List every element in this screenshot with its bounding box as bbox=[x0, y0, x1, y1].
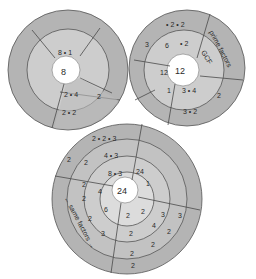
w8-ring1-right: 2 bbox=[97, 93, 101, 100]
w12-ring1-top: • 2 bbox=[180, 40, 188, 47]
w24-ring2-left: 2 bbox=[84, 159, 88, 166]
w12-ring1-left3: 1 bbox=[167, 87, 171, 94]
w24-ring1-right: 24 bbox=[136, 168, 144, 175]
w24-ring4-bottomright: 2 bbox=[151, 241, 155, 248]
w8-ring1-bottom: 2 • 4 bbox=[64, 91, 78, 98]
factor-wheels-diagram: 8 • 1 8 2 • 4 2 2 • 2 • 2 • 2 3 6 • 2 12… bbox=[0, 0, 256, 279]
w24-ring1-right2: 1 bbox=[146, 180, 150, 187]
w12-ring1-left: 6 bbox=[165, 42, 169, 49]
w24-ring2-left4: 2 bbox=[88, 215, 92, 222]
w24-ring1-bottom: 2 bbox=[126, 212, 130, 219]
w12-ring2-right: 2 bbox=[217, 92, 221, 99]
w24-ring1-left: 4 bbox=[98, 188, 102, 195]
w24-center: 24 bbox=[117, 186, 127, 196]
w24-ring3-right: 3 bbox=[178, 212, 182, 219]
w24-ring3-bottomright: 2 bbox=[167, 228, 171, 235]
w8-center: 8 bbox=[61, 67, 66, 77]
w12-ring2-left: 3 bbox=[145, 41, 149, 48]
wheel-12: • 2 • 2 3 6 • 2 12 12 1 3 • 4 2 3 • 2 GC… bbox=[129, 10, 245, 126]
w12-ring2-bottom: 3 • 2 bbox=[183, 108, 197, 115]
w24-ring2-top: 4 • 3 bbox=[104, 152, 118, 159]
wheel-8: 8 • 1 8 2 • 4 2 2 • 2 bbox=[8, 10, 128, 130]
w24-ring2-bottomright: 4 bbox=[152, 222, 156, 229]
wheel-24: 2 • 2 • 3 4 • 3 2 2 8 • 3 24 1 24 2 4 2 … bbox=[52, 124, 202, 274]
w24-ring3-top: 2 • 2 • 3 bbox=[92, 135, 116, 142]
w24-ring2-bottom: 2 bbox=[129, 230, 133, 237]
w24-ring1-top: 8 • 3 bbox=[108, 170, 122, 177]
w24-ring1-bottomleft: 6 bbox=[104, 206, 108, 213]
w24-ring1-bottomright: 2 bbox=[141, 208, 145, 215]
w24-ring2-left2: 2 bbox=[82, 181, 86, 188]
w24-ring3-left: 2 bbox=[67, 156, 71, 163]
w8-ring2-bottom: 2 • 2 bbox=[62, 109, 76, 116]
w12-ring1-left2: 12 bbox=[160, 69, 168, 76]
w12-ring2-top: • 2 • 2 bbox=[166, 21, 185, 28]
w12-ring1-bottom: 3 • 4 bbox=[182, 87, 196, 94]
w12-center: 12 bbox=[175, 66, 185, 76]
w24-ring4-bottom: 2 bbox=[131, 262, 135, 269]
w24-ring2-left5: 3 bbox=[101, 230, 105, 237]
w24-ring2-left3: 2 bbox=[82, 195, 86, 202]
w8-ring1-top: 8 • 1 bbox=[58, 49, 72, 56]
w24-ring3-bottom: 2 bbox=[130, 250, 134, 257]
w24-ring2-right: 3 bbox=[161, 211, 165, 218]
